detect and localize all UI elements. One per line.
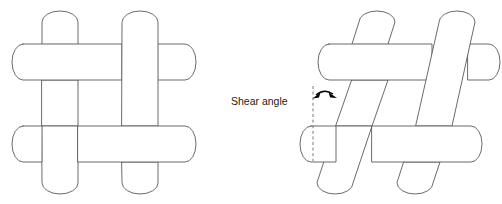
panel-undeformed-plain-weave <box>12 11 196 194</box>
weft-bottom-right-segment <box>78 126 196 162</box>
weft-bottom-sheared-right-segment <box>372 126 482 162</box>
warp-right-upper-segment <box>122 11 158 126</box>
weft-top-left-segment <box>12 44 122 80</box>
weft-bottom-sheared-left-segment <box>300 126 336 162</box>
warp-right-sheared-lower-segment <box>397 162 440 194</box>
shear-angle-figure: Shear angle <box>0 0 502 204</box>
warp-left-sheared-top-segment <box>352 11 395 44</box>
weft-bottom-left-segment <box>12 126 42 162</box>
warp-left-bottom-segment <box>42 126 78 194</box>
shear-angle-label: Shear angle <box>231 95 288 107</box>
warp-right-lower-segment <box>122 162 158 194</box>
warp-left-sheared-middle-segment <box>336 80 388 126</box>
weft-top-sheared-left-segment <box>318 44 432 80</box>
weft-top-sheared-right-segment <box>468 44 500 80</box>
panel-sheared-plain-weave <box>300 11 500 194</box>
warp-left-top-segment <box>42 11 78 44</box>
warp-left-middle-segment <box>42 80 78 126</box>
weft-top-right-segment <box>158 44 196 80</box>
